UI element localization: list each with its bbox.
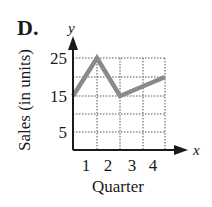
x-axis-title: Quarter [92,177,144,196]
x-tick-3: 3 [128,156,137,175]
x-axis-arrow-icon [174,145,188,155]
line-chart: y x 25 15 5 1 2 3 4 Quarter Sales (in un… [0,0,212,207]
x-tick-2: 2 [104,156,113,175]
y-tick-15: 15 [50,87,67,106]
y-tick-25: 25 [50,49,67,68]
x-axis-symbol: x [192,142,200,158]
y-axis-title: Sales (in units) [15,49,34,151]
x-tick-4: 4 [149,156,158,175]
y-axis-arrow-icon [68,36,78,50]
x-tick-1: 1 [82,156,91,175]
y-tick-5: 5 [59,123,68,142]
y-axis-symbol: y [66,20,75,36]
